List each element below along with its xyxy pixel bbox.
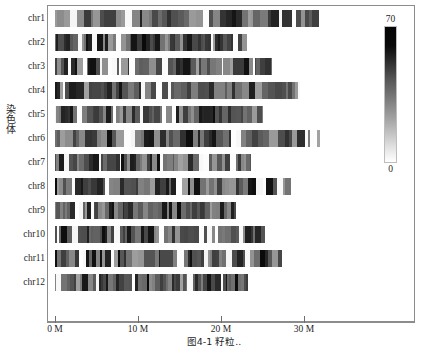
colorbar-max-label: 70 — [384, 14, 397, 25]
category-label-chr7: chr7 — [1, 157, 45, 167]
x-axis-tick-label: 20 M — [211, 324, 231, 335]
category-label-chr6: chr6 — [1, 133, 45, 143]
x-axis-tick-label: 0 M — [47, 324, 63, 335]
category-label-chr5: chr5 — [1, 109, 45, 119]
x-axis-tick — [304, 316, 305, 323]
x-axis-tick — [221, 316, 222, 323]
x-axis-line — [47, 322, 415, 323]
x-axis-tick-label: 10 M — [128, 324, 148, 335]
category-label-chr12: chr12 — [1, 277, 45, 287]
category-labels: chr1chr2chr3chr4chr5chr6chr7chr8chr9chr1… — [0, 0, 45, 344]
category-label-chr1: chr1 — [1, 13, 45, 23]
category-label-chr11: chr11 — [1, 253, 45, 263]
x-axis-tick — [138, 316, 139, 323]
x-axis-tick — [55, 316, 56, 323]
x-axis-tick-label: 30 M — [294, 324, 314, 335]
category-label-chr2: chr2 — [1, 37, 45, 47]
category-label-chr4: chr4 — [1, 85, 45, 95]
figure-caption: 图4-1 籽粒.. — [0, 336, 428, 347]
colorbar-gradient — [384, 26, 397, 163]
category-label-chr9: chr9 — [1, 205, 45, 215]
category-label-chr8: chr8 — [1, 181, 45, 191]
category-label-chr3: chr3 — [1, 61, 45, 71]
colorbar-min-label: 0 — [384, 164, 397, 175]
category-label-chr10: chr10 — [1, 229, 45, 239]
plot-frame — [47, 5, 415, 322]
